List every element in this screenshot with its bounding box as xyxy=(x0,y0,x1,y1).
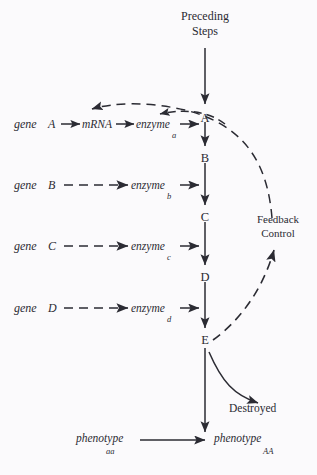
enzyme-d-word: enzyme xyxy=(131,303,165,315)
feedback-to-gene-a-curve xyxy=(92,104,272,218)
preceding-steps-line1: Preceding xyxy=(181,10,229,22)
feedback-control-line2: Control xyxy=(257,228,299,239)
enzyme-b-word: enzyme xyxy=(131,180,165,192)
preceding-steps-line2: Steps xyxy=(181,25,229,37)
phenotype-AA-subscript: AA xyxy=(263,446,273,456)
enzyme-d-subscript: d xyxy=(167,314,171,324)
gene-b-letter: B xyxy=(48,179,55,191)
enzyme-a-subscript: a xyxy=(172,130,176,140)
gene-b-word: gene xyxy=(14,179,37,191)
e-to-feedback-control-arrow xyxy=(213,250,274,340)
enzyme-a-word: enzyme xyxy=(136,119,170,131)
chain-node-A: A xyxy=(200,112,209,125)
chain-node-E: E xyxy=(201,334,209,347)
chain-node-C: C xyxy=(201,211,209,224)
phenotype-AA-word: phenotype xyxy=(214,433,261,445)
gene-a-word: gene xyxy=(14,118,37,130)
phenotype-aa-word: phenotype xyxy=(76,433,123,445)
feedback-control-label: Feedback Control xyxy=(257,214,299,239)
chain-node-D: D xyxy=(200,271,209,284)
enzyme-c-subscript: c xyxy=(167,252,171,262)
gene-c-letter: C xyxy=(48,240,56,252)
gene-d-letter: D xyxy=(48,302,57,314)
chain-node-B: B xyxy=(201,152,209,165)
feedback-control-line1: Feedback xyxy=(257,214,299,225)
phenotype-aa-subscript: aa xyxy=(106,446,115,456)
gene-a-letter: A xyxy=(48,118,55,130)
enzyme-b-subscript: b xyxy=(167,191,171,201)
destroyed-label: Destroyed xyxy=(229,403,276,415)
mrna-label: mRNA xyxy=(82,119,112,131)
gene-c-word: gene xyxy=(14,240,37,252)
preceding-steps-label: Preceding Steps xyxy=(181,10,229,37)
e-to-destroyed-arrow xyxy=(209,352,258,403)
enzyme-c-word: enzyme xyxy=(131,241,165,253)
gene-d-word: gene xyxy=(14,302,37,314)
